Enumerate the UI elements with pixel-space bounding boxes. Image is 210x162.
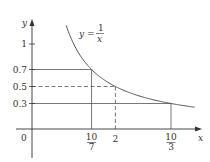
x-axis-arrow-icon	[195, 127, 202, 132]
function-label: y = 1 x	[78, 23, 104, 44]
x-tick-numerator: 10	[165, 132, 177, 142]
x-axis-label: x	[198, 133, 203, 143]
y-tick-label: 0.5	[13, 82, 28, 92]
x-tick-denominator: 7	[89, 142, 95, 152]
y-tick-label: 0.3	[13, 99, 28, 109]
x-ticks: 1072103	[86, 132, 177, 152]
y-tick-label: 1	[21, 39, 27, 49]
y-axis-arrow-icon	[30, 19, 35, 26]
function-label-lhs: y =	[78, 29, 95, 39]
chart: 10.70.50.3 1072103 y x 0 y = 1 x	[0, 0, 210, 162]
origin-label: 0	[21, 133, 27, 143]
y-axis-label: y	[21, 18, 28, 28]
y-tick-label: 0.7	[13, 65, 28, 75]
x-tick-label: 2	[113, 134, 119, 144]
x-tick-numerator: 10	[86, 132, 98, 142]
function-label-numerator: 1	[98, 23, 104, 33]
function-label-denominator: x	[97, 34, 102, 44]
x-tick-denominator: 3	[168, 142, 174, 152]
